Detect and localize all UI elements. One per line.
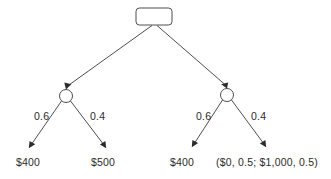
arrow-head-left-lower [100, 141, 106, 148]
probability-label-right-lower: 0.4 [251, 111, 266, 122]
branch-right-upper [194, 100, 223, 144]
outcome-label-1: $400 [16, 157, 40, 168]
branch-root-to-left [68, 26, 153, 87]
decision-tree-diagram: 0.6 0.4 0.6 0.4 $400 $500 $400 ($0, 0.5;… [0, 0, 331, 179]
probability-label-left-upper: 0.6 [34, 111, 49, 122]
root-decision-node[interactable] [136, 8, 172, 25]
branch-right-lower [232, 100, 265, 144]
branch-left-lower [71, 101, 105, 145]
right-chance-node[interactable] [221, 89, 234, 102]
outcome-label-2: $500 [91, 157, 115, 168]
arrow-head-root-to-right [221, 82, 228, 88]
left-chance-node[interactable] [60, 90, 73, 103]
branch-left-upper [31, 101, 62, 145]
probability-label-right-upper: 0.6 [196, 111, 211, 122]
arrow-head-right-lower [260, 140, 266, 147]
outcome-label-3: $400 [170, 157, 194, 168]
arrow-head-right-upper [192, 140, 198, 147]
arrow-head-left-upper [29, 141, 35, 148]
outcome-label-4: ($0, 0.5; $1,000, 0.5) [216, 157, 318, 168]
probability-label-left-lower: 0.4 [90, 111, 105, 122]
branch-root-to-right [157, 26, 226, 86]
tree-graphics [0, 0, 331, 179]
